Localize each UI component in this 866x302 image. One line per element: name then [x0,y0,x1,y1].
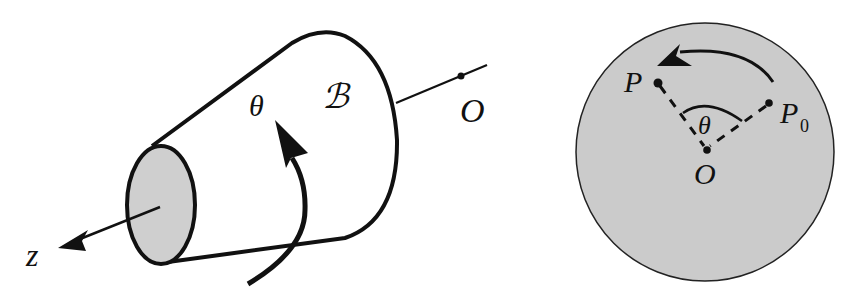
diagram-canvas: θ ℬ O z P P 0 θ O [0,0,866,302]
rigid-body-figure: θ ℬ O z [25,32,487,284]
origin-dot [703,146,711,154]
origin-label: O [460,92,485,129]
origin-label: O [694,157,716,190]
theta-label: θ [249,89,264,122]
z-axis-label: z [25,237,39,273]
disk-cross-section-figure: P P 0 θ O [576,23,834,281]
rotation-arrow [248,158,305,284]
point-p-label: P [623,65,642,98]
body-label: ℬ [322,78,351,115]
point-p0-subscript: 0 [800,116,809,136]
front-face-ellipse [127,146,195,264]
angle-theta-label: θ [698,111,711,140]
origin-dot [458,73,465,80]
point-p0-dot [765,99,773,107]
point-p0-label: P [779,96,798,129]
z-axis-arrowhead-icon [58,230,88,251]
